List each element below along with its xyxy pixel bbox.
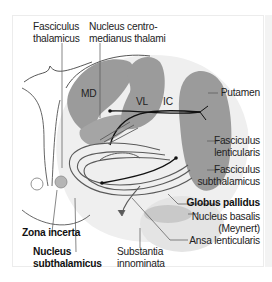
label-ansa-lenticularis: Ansa lenticularis	[189, 235, 260, 247]
nucleus-basalis-region	[144, 205, 192, 223]
label-substantia-innominata: Substantia innominata	[117, 246, 165, 269]
ventricle-outline-left	[22, 88, 48, 186]
region-label-vl: VL	[136, 96, 148, 108]
nucleus-subthalamicus-circle	[55, 176, 67, 188]
label-nucleus-basalis: Nucleus basalis (Meynert)	[192, 211, 260, 234]
label-nucleus-subthalamicus: Nucleus subthalamicus	[33, 246, 102, 269]
label-putamen: Putamen	[221, 87, 260, 99]
label-zona-incerta: Zona incerta	[22, 227, 80, 239]
region-label-md: MD	[81, 88, 96, 100]
region-label-ic: IC	[163, 96, 173, 108]
label-fasciculus-lenticularis: Fasciculus lenticularis	[214, 135, 260, 158]
label-nucleus-centromedianus: Nucleus centro- medianus thalami	[89, 21, 166, 44]
zona-incerta-circle	[31, 178, 43, 190]
label-fasciculus-subthalamicus: Fasciculus subthalamicus	[197, 164, 260, 187]
label-fasciculus-thalamicus: Fasciculus thalamicus	[33, 21, 80, 44]
label-globus-pallidus: Globus pallidus	[187, 197, 260, 209]
